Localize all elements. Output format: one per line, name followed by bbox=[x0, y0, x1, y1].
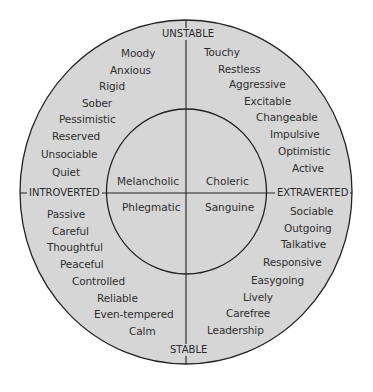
trait-label: Aggressive bbox=[229, 78, 286, 90]
trait-label: Rigid bbox=[99, 80, 125, 92]
trait-label: Impulsive bbox=[270, 128, 320, 140]
trait-label: Restless bbox=[218, 63, 260, 75]
axis-label-stable: STABLE bbox=[168, 344, 209, 356]
trait-label: Thoughtful bbox=[47, 241, 103, 253]
axis-label-extraverted: EXTRAVERTED bbox=[275, 187, 350, 199]
trait-label: Excitable bbox=[244, 95, 291, 107]
trait-label: Optimistic bbox=[278, 145, 330, 157]
trait-label: Reliable bbox=[97, 292, 138, 304]
trait-label: Active bbox=[292, 162, 324, 174]
trait-label: Changeable bbox=[256, 111, 318, 123]
trait-label: Reserved bbox=[52, 130, 100, 142]
trait-label: Even-tempered bbox=[94, 308, 174, 320]
axis-label-unstable: UNSTABLE bbox=[160, 28, 216, 40]
trait-label: Anxious bbox=[110, 64, 151, 76]
trait-label: Carefree bbox=[226, 307, 270, 319]
trait-label: Talkative bbox=[281, 238, 326, 250]
trait-label: Passive bbox=[47, 208, 85, 220]
trait-label: Unsociable bbox=[41, 148, 97, 160]
temperament-phlegmatic: Phlegmatic bbox=[122, 201, 181, 213]
trait-label: Controlled bbox=[72, 275, 125, 287]
personality-circle-diagram: UNSTABLE STABLE INTROVERTED EXTRAVERTED … bbox=[0, 0, 373, 392]
trait-label: Easygoing bbox=[251, 274, 304, 286]
trait-label: Sociable bbox=[290, 205, 333, 217]
trait-label: Sober bbox=[82, 97, 112, 109]
trait-label: Careful bbox=[52, 225, 89, 237]
trait-label: Lively bbox=[243, 291, 273, 303]
trait-label: Touchy bbox=[204, 46, 240, 58]
trait-label: Moody bbox=[121, 47, 155, 59]
temperament-melancholic: Melancholic bbox=[117, 175, 179, 187]
temperament-choleric: Choleric bbox=[206, 175, 249, 187]
trait-label: Outgoing bbox=[284, 222, 332, 234]
trait-label: Leadership bbox=[207, 324, 264, 336]
trait-label: Calm bbox=[129, 325, 156, 337]
trait-label: Responsive bbox=[263, 256, 322, 268]
trait-label: Peaceful bbox=[60, 258, 104, 270]
axis-label-introverted: INTROVERTED bbox=[27, 187, 102, 199]
temperament-sanguine: Sanguine bbox=[205, 201, 254, 213]
trait-label: Pessimistic bbox=[59, 113, 116, 125]
trait-label: Quiet bbox=[52, 166, 80, 178]
